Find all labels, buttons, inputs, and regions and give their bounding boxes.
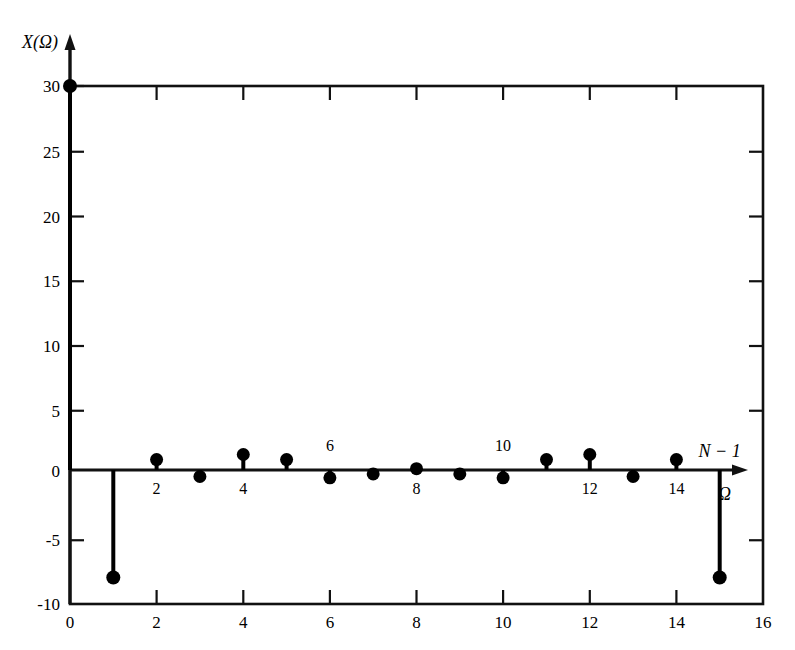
x-tick-label: 10 (495, 613, 512, 632)
data-point-n15 (713, 571, 727, 585)
annotation-12: 12 (582, 480, 598, 497)
stem-lines (70, 86, 720, 578)
y-tick-label: 10 (43, 337, 60, 356)
data-point-n4 (237, 448, 250, 461)
x-tick-label: 6 (326, 613, 335, 632)
y-tick-label: 15 (43, 272, 60, 291)
y-tick-marks (70, 86, 84, 540)
x-tick-labels: 0 2 4 6 8 10 12 14 16 (66, 613, 772, 632)
y-tick-label: -10 (37, 595, 60, 614)
annotation-n-minus-1: N − 1 (698, 441, 741, 461)
y-tick-label: -5 (46, 531, 60, 550)
data-point-n5 (280, 453, 293, 466)
data-point-n11 (540, 453, 553, 466)
x-tick-label: 16 (755, 613, 772, 632)
data-point-n13 (627, 470, 640, 483)
y-tick-label: 25 (43, 143, 60, 162)
y-tick-label: 0 (52, 462, 61, 481)
plot-frame (70, 86, 763, 604)
annotation-6: 6 (326, 437, 334, 454)
data-point-n14 (670, 453, 683, 466)
x-tick-marks-bottom (157, 590, 677, 604)
y-tick-label: 5 (52, 402, 61, 421)
y-tick-label: 30 (43, 77, 60, 96)
data-point-n10 (497, 471, 510, 484)
annotation-2: 2 (153, 480, 161, 497)
x-tick-label: 4 (239, 613, 248, 632)
y-tick-labels: 30 25 20 15 10 5 0 -5 -10 (37, 77, 60, 614)
x-tick-label: 0 (66, 613, 75, 632)
data-point-n9 (453, 467, 466, 480)
data-point-n0 (63, 79, 77, 93)
annotation-14: 14 (668, 480, 684, 497)
data-point-n12 (583, 448, 596, 461)
annotation-8: 8 (413, 480, 421, 497)
x-axis-zero-line (70, 465, 748, 476)
sample-index-annotations: 2 4 6 8 10 12 14 N − 1 (153, 437, 741, 497)
data-point-n2 (150, 453, 163, 466)
y-tick-marks-right (749, 152, 763, 541)
x-tick-label: 2 (152, 613, 161, 632)
data-point-n3 (193, 470, 206, 483)
data-point-n1 (106, 571, 120, 585)
chart-figure: 30 25 20 15 10 5 0 -5 -10 0 2 4 6 8 10 1… (0, 0, 795, 650)
y-axis-title: X(Ω) (21, 32, 58, 53)
data-point-markers (63, 79, 727, 585)
x-tick-label: 14 (668, 613, 686, 632)
x-tick-marks-top (157, 86, 677, 100)
y-tick-label: 20 (43, 208, 60, 227)
dft-magnitude-stem-plot: 30 25 20 15 10 5 0 -5 -10 0 2 4 6 8 10 1… (0, 0, 795, 650)
annotation-4: 4 (239, 480, 247, 497)
annotation-10: 10 (495, 437, 511, 454)
data-point-n8 (410, 462, 423, 475)
data-point-n6 (323, 471, 336, 484)
data-point-n7 (367, 467, 380, 480)
x-tick-label: 8 (412, 613, 421, 632)
x-tick-label: 12 (581, 613, 598, 632)
